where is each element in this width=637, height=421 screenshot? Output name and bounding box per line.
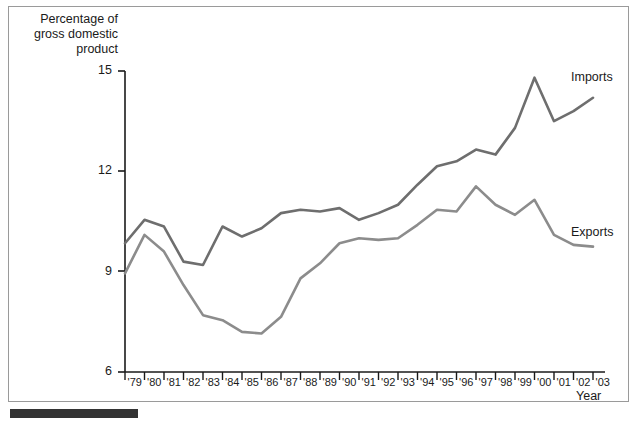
footer-bar [10, 409, 138, 418]
y-axis-title: Percentage of gross domestic product [28, 12, 118, 57]
series-line-imports [125, 78, 593, 265]
y-axis-tick-label: 12 [86, 163, 112, 177]
chart-axes [118, 71, 605, 380]
y-axis-tick-label: 15 [86, 63, 112, 77]
y-axis-tick-label: 6 [86, 364, 112, 378]
chart-series-group [125, 78, 593, 334]
series-label-imports: Imports [571, 70, 613, 84]
y-axis-tick-label: 9 [86, 264, 112, 278]
series-label-exports: Exports [571, 225, 613, 239]
y-axis-ticks [118, 71, 125, 372]
x-axis-title: Year [576, 389, 616, 404]
series-line-exports [125, 186, 593, 333]
x-axis-tick-label: '03 [590, 376, 616, 388]
chart-figure: Percentage of gross domestic product Yea… [0, 0, 637, 421]
